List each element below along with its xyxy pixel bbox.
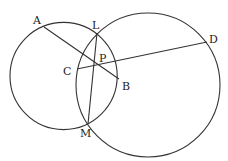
point-label-c: C	[63, 65, 71, 78]
segment-ab	[44, 27, 119, 79]
point-label-p: P	[99, 52, 107, 65]
segment-lm	[88, 33, 97, 124]
point-label-a: A	[32, 14, 42, 27]
diagram-canvas: A L P C B D M	[0, 0, 228, 161]
point-label-d: D	[209, 33, 218, 46]
point-label-l: L	[92, 19, 100, 32]
geometry-figure: A L P C B D M	[0, 0, 228, 161]
point-label-m: M	[80, 127, 91, 140]
point-label-b: B	[122, 80, 130, 93]
segment-cd	[77, 42, 207, 69]
